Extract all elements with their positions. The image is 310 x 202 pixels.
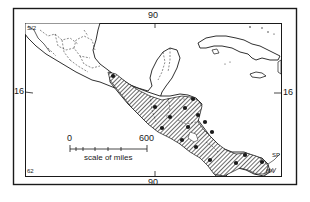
locality-dot [203, 120, 207, 124]
locality-dot [180, 138, 184, 142]
right-latitude-label: 16 [283, 88, 293, 97]
locality-dot [153, 105, 157, 109]
scale-bar [70, 145, 147, 152]
cuba-island [198, 36, 280, 60]
locality-dot [111, 74, 115, 78]
locality-dot [210, 130, 214, 134]
bahamas-islands [249, 26, 274, 34]
scale-end-label: 600 [139, 134, 154, 143]
map-svg [0, 0, 310, 202]
locality-dot [194, 145, 198, 149]
bottom-longitude-label: 90 [148, 178, 158, 187]
locality-dot [208, 158, 212, 162]
scale-caption: scale of miles [84, 154, 132, 162]
corner-annotation-top-left: S/2 [27, 25, 36, 31]
left-latitude-tick [25, 92, 33, 93]
locality-dot [168, 115, 172, 119]
locality-dot [260, 160, 264, 164]
locality-dot [191, 97, 195, 101]
mexico-landmass [25, 23, 180, 100]
isle-of-youth [212, 49, 219, 54]
locality-dot [196, 113, 200, 117]
scale-start-label: 0 [67, 134, 72, 143]
left-latitude-label: 16 [14, 87, 24, 96]
locality-dot [160, 126, 164, 130]
corner-annotation-sp: SP [272, 152, 280, 158]
corner-annotation-sn: SN [266, 168, 274, 174]
locality-dot [186, 125, 190, 129]
locality-dot [234, 161, 238, 165]
corner-annotation-bottom-left: 62 [27, 168, 34, 174]
locality-dot [183, 106, 187, 110]
top-longitude-label: 90 [148, 11, 158, 20]
map-figure: 90 90 16 16 0 600 scale of miles S/2 62 … [0, 0, 310, 202]
jamaica-island [250, 72, 266, 78]
locality-dot [243, 153, 247, 157]
hispaniola-edge [278, 60, 281, 74]
